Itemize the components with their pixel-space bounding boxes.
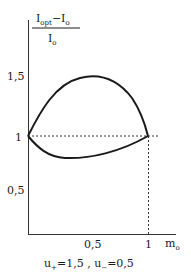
y-axis-label: Iopt−Io Io [32, 12, 80, 47]
x-tick-1: 1 [145, 238, 152, 251]
lower-curve [28, 136, 148, 158]
x-tick-0-5: 0,5 [84, 238, 102, 251]
y-label-denominator: Io [48, 32, 57, 47]
y-label-numerator: Iopt−Io [36, 12, 70, 27]
upper-curve [28, 76, 148, 136]
y-tick-1: 1 [15, 131, 22, 144]
x-axis-label: mo [165, 237, 180, 252]
y-tick-1-5: 1,5 [7, 70, 25, 83]
y-tick-0-5: 0,5 [7, 184, 25, 197]
chart: Iopt−Io Io 1,5 1 0,5 0,5 1 mo u+=1,5 , u… [0, 0, 191, 278]
parameter-annotation: u+=1,5 , u−=0,5 [44, 257, 134, 272]
